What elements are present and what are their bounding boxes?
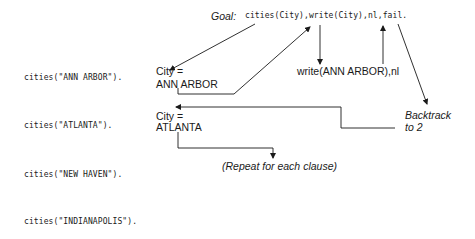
- arrow-fail-backtrack: [398, 24, 427, 104]
- repeat-note: (Repeat for each clause): [222, 161, 337, 172]
- clause-atlanta: cities("ATLANTA").: [24, 122, 113, 130]
- arrow-backtrack-to-second: [176, 107, 395, 128]
- goal-label: Goal:: [211, 11, 236, 22]
- clause-indianapolis: cities("INDIANAPOLIS").: [24, 218, 137, 226]
- clause-ann-arbor: cities("ANN ARBOR").: [24, 74, 122, 82]
- goal-query: cities(City),write(City),nl,fail.: [245, 12, 407, 20]
- arrow-repeat: [178, 132, 273, 158]
- binding-2-value: ATLANTA: [156, 122, 202, 133]
- arrow-unify-first: [170, 24, 255, 70]
- binding-2-lhs: City =: [156, 111, 183, 122]
- flow-arrows: [0, 0, 475, 239]
- clause-new-haven: cities("NEW HAVEN").: [24, 171, 122, 179]
- binding-1-lhs: City =: [156, 66, 183, 77]
- backtrack-line1: Backtrack: [405, 110, 451, 121]
- write-step: write(ANN ARBOR),nl: [297, 66, 399, 77]
- binding-1-value: ANN ARBOR: [156, 79, 218, 90]
- backtrack-line2: to 2: [405, 122, 423, 133]
